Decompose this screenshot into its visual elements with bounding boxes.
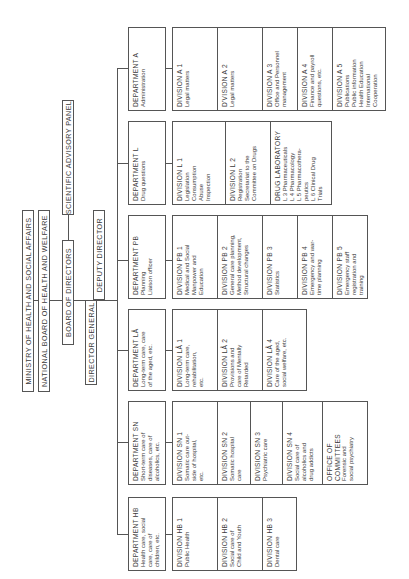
division-a-3: DIVISION A 3 Office and Personnel manage… <box>262 27 297 111</box>
division-title: DIVISION LÅ 2 <box>221 313 229 387</box>
division-title: OFFICE OF COMMITTEES <box>326 405 341 481</box>
ministry-box: MINISTRY OF HEALTH AND SOCIAL AFFAIRS <box>22 210 34 392</box>
division-title: DIVISION L 2 <box>229 125 237 201</box>
division-title: DIVISION HB 1 <box>176 501 184 567</box>
division-a-4: DIVISION A 4 Finance and payroll questio… <box>297 27 332 111</box>
division-desc: Long-term care, rehabilitation, etc. <box>184 313 205 387</box>
division-desc: Legislation Consumption Abuse Inspection <box>184 125 212 201</box>
department-sn-box: DEPARTMENT SN Short-term care of disease… <box>128 401 166 485</box>
division-l-1: DIVISION L 1 Legislation Consumption Abu… <box>172 121 225 205</box>
division-hb-2: DIVISION HB 2 Social care of Child and Y… <box>217 497 262 571</box>
department-hb-desc: Health care, social care, care of childr… <box>140 501 161 567</box>
drop-pb <box>117 260 128 261</box>
department-a-desc: Administration <box>140 31 147 107</box>
division-desc: Social care of alcoholics and drug addic… <box>294 405 315 481</box>
division-sn-4: DIVISION SN 4 Social care of alcoholics … <box>282 401 322 485</box>
deputy-director-label: DEPUTY DIRECTOR <box>95 218 104 292</box>
department-la-box: DEPARTMENT LÅ Long-term care, care of th… <box>128 309 166 391</box>
division-la-2: DIVISION LÅ 2 Provisions and care of Men… <box>217 309 262 391</box>
division-title: DIVISION A 1 <box>176 31 184 107</box>
division-title: DIVISION A 5 <box>336 31 344 107</box>
board-of-directors-label: BOARD OF DIRECTORS <box>64 248 73 337</box>
division-hb-1: DIVISION HB 1 Public Health <box>172 497 217 571</box>
org-chart: MINISTRY OF HEALTH AND SOCIAL AFFAIRS NA… <box>0 0 409 579</box>
division-desc: General care planning, Method developmen… <box>229 219 250 295</box>
department-sn-title: DEPARTMENT SN <box>132 405 140 481</box>
national-board-label: NATIONAL BOARD OF HEALTH AND WELFARE <box>40 215 49 387</box>
department-l-box: DEPARTMENT L Drug questions <box>128 121 166 205</box>
division-desc: Registration Secretariat to the Committe… <box>237 125 258 201</box>
division-sn-1: DIVISION SN 1 Somatic care out- side of … <box>172 401 217 485</box>
deputy-director-box: DEPUTY DIRECTOR <box>93 210 105 300</box>
division-l-2: DIVISION L 2 Registration Secretariat to… <box>225 121 270 205</box>
division-desc: Provisions and care of Mentally Retarded <box>229 313 250 387</box>
division-sn-3: DIVISION SN 3 Psychiatric care <box>250 401 282 485</box>
drop-la <box>117 350 128 351</box>
division-title: DIVISION PB 5 <box>336 219 344 295</box>
division-title: DIVISION SN 3 <box>254 405 262 481</box>
department-l-desc: Drug questions <box>140 125 147 201</box>
division-desc: Emergency and war- time planning <box>309 219 323 295</box>
division-title: DIVISION SN 1 <box>176 405 184 481</box>
office-of-committees: OFFICE OF COMMITTEES Forensic and social… <box>322 401 368 485</box>
division-title: DIVISION HB 2 <box>221 501 229 567</box>
division-desc: Care of the aged, social welfare, etc. <box>274 313 288 387</box>
division-desc: Social care of Child and Youth <box>229 501 243 567</box>
division-desc: Office and Personnel management <box>274 31 288 107</box>
division-desc: Statistics <box>274 219 281 295</box>
drop-a <box>117 68 128 69</box>
department-sn-desc: Short-term care of diseases, care of alc… <box>140 405 161 481</box>
scientific-panel-label: SCIENTIFIC ADVISORY PANEL <box>64 101 73 214</box>
division-a-5: DIVISION A 5 Publications Public informa… <box>332 27 386 111</box>
division-title: DIVISION A 3 <box>266 31 274 107</box>
national-board-box: NATIONAL BOARD OF HEALTH AND WELFARE <box>38 210 50 392</box>
division-la-4: DIVISION LÅ 4 Care of the aged, social w… <box>262 309 307 391</box>
division-title: DIVISION HB 3 <box>266 501 274 567</box>
department-la-desc: Long-term care, care of the aged, etc. <box>140 313 154 387</box>
division-pb-3: DIVISION PB 3 Statistics <box>262 215 297 299</box>
division-title: DIVISION LÅ 4 <box>266 313 274 387</box>
division-desc: Forensic and social psychiatry <box>341 405 355 481</box>
drug-laboratory: DRUG LABORATORY L 3 Pharmaceuticals L 4 … <box>270 121 332 205</box>
board-of-directors-box: BOARD OF DIRECTORS <box>62 240 74 345</box>
department-pb-title: DEPARTMENT PB <box>132 219 140 295</box>
division-title: DIVISION PB 2 <box>221 219 229 295</box>
division-a-2: D'VISION A 2 Legal matters <box>217 27 262 111</box>
connector-dg-spine <box>97 300 117 301</box>
division-desc: Emergency staff registration and trainin… <box>344 219 365 295</box>
division-title: D'VISION A 2 <box>221 31 229 107</box>
department-spine <box>117 69 118 535</box>
division-desc: Finance and payroll questions, etc. <box>309 31 323 107</box>
division-hb-3: DIVISION HB 3 Dental care <box>262 497 297 571</box>
division-title: DIVISION LÅ 1 <box>176 313 184 387</box>
division-pb-5: DIVISION PB 5 Emergency staff registrati… <box>332 215 368 299</box>
division-pb-2: DIVISION PB 2 General care planning, Met… <box>217 215 262 299</box>
connector-bod-dg <box>74 300 85 301</box>
division-title: DIVISION PB 3 <box>266 219 274 295</box>
department-a-title: DEPARTMENT A <box>132 31 140 107</box>
division-desc: Legal matters <box>184 31 191 107</box>
division-desc: Dental care <box>274 501 281 567</box>
division-title: DIVISION PB 4 <box>301 219 309 295</box>
division-desc: Psychiatric care <box>262 405 269 481</box>
division-la-1: DIVISION LÅ 1 Long-term care, rehabilita… <box>172 309 217 391</box>
division-desc: Somatic hospital care <box>229 405 243 481</box>
division-desc: Somatic care out- side of hospital, etc. <box>184 405 205 481</box>
connector-bod-panel <box>68 215 69 240</box>
division-title: DIVISION SN 2 <box>221 405 229 481</box>
drop-sn <box>117 442 128 443</box>
division-desc: Medical and Social Manpower and Educatio… <box>184 219 205 295</box>
department-l-title: DEPARTMENT L <box>132 125 140 201</box>
division-pb-4: DIVISION PB 4 Emergency and war- time pl… <box>297 215 332 299</box>
division-a-1: DIVISION A 1 Legal matters <box>172 27 217 111</box>
department-hb-title: DEPARTMENT HB <box>132 501 140 567</box>
division-title: DIVISION SN 4 <box>286 405 294 481</box>
department-hb-box: DEPARTMENT HB Health care, social care, … <box>128 497 166 571</box>
director-general-label: DIRECTOR GENERAL <box>87 302 96 382</box>
director-general-box: DIRECTOR GENERAL <box>85 300 97 385</box>
division-desc: Legal matters <box>229 31 236 107</box>
ministry-label: MINISTRY OF HEALTH AND SOCIAL AFFAIRS <box>24 217 33 384</box>
department-la-title: DEPARTMENT LÅ <box>132 313 140 387</box>
division-desc: L 3 Pharmaceuticals L 4 Pharmacology L 5… <box>282 125 324 201</box>
division-sn-2: DIVISION SN 2 Somatic hospital care <box>217 401 250 485</box>
